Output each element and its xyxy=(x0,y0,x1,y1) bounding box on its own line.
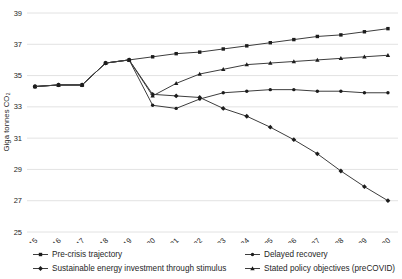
triangle-line-marker-icon xyxy=(245,264,260,273)
series-line xyxy=(35,29,388,87)
data-point-marker xyxy=(222,91,225,94)
x-axis-tick-label: 2024 xyxy=(233,236,251,243)
x-axis-tick-label: 2016 xyxy=(45,236,63,243)
x-axis-tick-label: 2021 xyxy=(162,236,180,243)
data-point-marker xyxy=(174,94,179,99)
y-axis-tick-label: 35 xyxy=(14,71,22,80)
legend-label: Delayed recovery xyxy=(264,250,328,259)
y-axis-tick-label: 25 xyxy=(14,228,22,237)
y-axis-tick-label: 33 xyxy=(14,102,22,111)
data-point-marker xyxy=(386,27,389,30)
legend-label: Stated policy objectives (preCOVID) xyxy=(264,264,395,273)
legend-marker-glyph xyxy=(33,250,48,259)
x-axis-tick-label: 2020 xyxy=(139,236,157,243)
plot-area: 3937353331292725201520162017201820192020… xyxy=(0,0,402,243)
x-axis-tick-label: 2028 xyxy=(327,236,345,243)
x-axis-tick-label: 2018 xyxy=(92,236,110,243)
x-axis-tick-label: 2030 xyxy=(374,236,392,243)
data-point-marker xyxy=(292,38,295,41)
x-axis-tick-label: 2015 xyxy=(21,236,39,243)
x-axis-tick-label: 2029 xyxy=(351,236,369,243)
data-point-marker xyxy=(151,55,154,58)
data-point-marker xyxy=(222,47,225,50)
data-point-marker xyxy=(39,253,42,256)
series-line xyxy=(35,60,388,108)
legend-label: Sustainable energy investment through st… xyxy=(52,264,226,273)
legend-item-pre-crisis-trajectory: Pre-crisis trajectory xyxy=(33,248,245,261)
legend-item-sustainable-energy-investment-through-stimulus: Sustainable energy investment through st… xyxy=(33,262,245,275)
data-point-marker xyxy=(316,90,319,93)
data-point-marker xyxy=(245,44,248,47)
x-axis-tick-label: 2019 xyxy=(115,236,133,243)
data-point-marker xyxy=(292,88,295,91)
x-axis-tick-label: 2025 xyxy=(257,236,275,243)
y-axis-tick-label: 29 xyxy=(14,165,22,174)
x-axis-tick-label: 2017 xyxy=(68,236,86,243)
legend-marker-glyph xyxy=(33,264,48,273)
x-axis-tick-label: 2022 xyxy=(186,236,204,243)
legend-marker-glyph xyxy=(245,250,260,259)
data-point-marker xyxy=(38,266,43,271)
data-point-marker xyxy=(339,90,342,93)
legend-label: Pre-crisis trajectory xyxy=(52,250,122,259)
y-axis-title: Giga tonnes CO₂ xyxy=(2,93,11,152)
legend-marker-glyph xyxy=(245,264,260,273)
data-point-marker xyxy=(251,253,254,256)
series-delayed-recovery xyxy=(33,58,389,110)
y-axis-tick-label: 27 xyxy=(14,196,22,205)
data-point-marker xyxy=(198,97,201,100)
data-point-marker xyxy=(269,41,272,44)
data-point-marker xyxy=(268,125,273,130)
data-point-marker xyxy=(198,50,201,53)
y-axis-tick-label: 39 xyxy=(14,9,22,18)
data-point-marker xyxy=(245,90,248,93)
co2-emission-scenarios-chart: 3937353331292725201520162017201820192020… xyxy=(0,0,402,279)
x-axis-tick-label: 2026 xyxy=(280,236,298,243)
data-point-marker xyxy=(244,114,249,119)
data-point-marker xyxy=(339,33,342,36)
y-axis-tick-label: 31 xyxy=(14,134,22,143)
y-axis-tick-label: 37 xyxy=(14,40,22,49)
data-point-marker xyxy=(269,88,272,91)
data-point-marker xyxy=(363,91,366,94)
chart-legend: Pre-crisis trajectoryDelayed recoverySus… xyxy=(0,248,402,275)
series-line xyxy=(35,60,388,201)
legend-item-stated-policy-objectives-precovid: Stated policy objectives (preCOVID) xyxy=(245,262,402,275)
data-point-marker xyxy=(316,35,319,38)
x-axis-tick-label: 2023 xyxy=(209,236,227,243)
legend-item-delayed-recovery: Delayed recovery xyxy=(245,248,402,261)
data-point-marker xyxy=(363,30,366,33)
data-point-marker xyxy=(174,107,177,110)
series-pre-crisis-trajectory xyxy=(33,27,389,88)
diamond-line-marker-icon xyxy=(33,264,48,273)
data-point-marker xyxy=(386,91,389,94)
data-point-marker xyxy=(386,198,391,203)
series-sustainable-energy-investment-through-stimulus xyxy=(33,58,391,204)
data-point-marker xyxy=(174,52,177,55)
circle-line-marker-icon xyxy=(245,250,260,259)
x-axis-tick-label: 2027 xyxy=(304,236,322,243)
data-point-marker xyxy=(151,104,154,107)
square-line-marker-icon xyxy=(33,250,48,259)
